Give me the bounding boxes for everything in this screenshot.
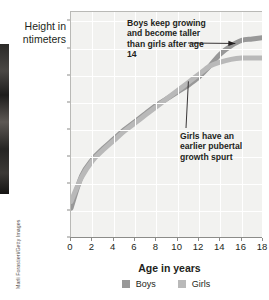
- annotation-boys: Boys keep growing and become taller than…: [127, 18, 213, 60]
- y-tick-mark: [67, 47, 70, 48]
- x-tick-mark: [70, 238, 71, 241]
- y-tick-mark: [67, 20, 70, 21]
- y-tick-mark: [67, 74, 70, 75]
- gridline-horizontal: [71, 211, 262, 212]
- y-axis-title-line1: Height in: [0, 20, 66, 33]
- y-axis-title-line2: ntimeters: [0, 33, 66, 46]
- x-tick-mark: [219, 238, 220, 241]
- gridline-vertical: [220, 12, 221, 237]
- chart-legend: Boys Girls: [70, 279, 262, 289]
- legend-item-boys: Boys: [122, 279, 156, 289]
- legend-item-girls: Girls: [178, 279, 211, 289]
- x-tick-mark: [177, 238, 178, 241]
- gridline-horizontal: [71, 103, 262, 104]
- y-tick-mark: [67, 101, 70, 102]
- photo-credit-strip: [0, 44, 9, 194]
- x-tick-mark: [241, 238, 242, 241]
- growth-chart-figure: Marli Forastieri/Getty Images Height in …: [0, 0, 269, 300]
- y-tick-mark: [67, 182, 70, 183]
- annotation-girls: Girls have an earlier pubertal growth sp…: [180, 131, 260, 162]
- legend-label-boys: Boys: [136, 279, 156, 289]
- x-tick-mark: [155, 238, 156, 241]
- x-tick-mark: [134, 238, 135, 241]
- y-tick-mark: [67, 155, 70, 156]
- legend-swatch-girls: [178, 280, 186, 288]
- x-tick-mark: [113, 238, 114, 241]
- y-tick-mark: [67, 128, 70, 129]
- gridline-horizontal: [71, 76, 262, 77]
- gridline-vertical: [114, 12, 115, 237]
- gridline-horizontal: [71, 184, 262, 185]
- legend-label-girls: Girls: [192, 279, 211, 289]
- x-axis-line: [70, 237, 262, 238]
- y-axis-title: Height in ntimeters: [0, 20, 66, 46]
- photo-credit-text: Marli Forastieri/Getty Images: [15, 181, 21, 289]
- legend-swatch-boys: [122, 280, 130, 288]
- x-tick-mark: [198, 238, 199, 241]
- x-tick-label: 18: [250, 241, 269, 252]
- gridline-vertical: [92, 12, 93, 237]
- x-axis-title: Age in years: [70, 262, 269, 274]
- gridline-vertical: [242, 12, 243, 237]
- y-tick-mark: [67, 209, 70, 210]
- x-tick-mark: [91, 238, 92, 241]
- x-tick-mark: [262, 238, 263, 241]
- series-line-boys: [71, 38, 262, 209]
